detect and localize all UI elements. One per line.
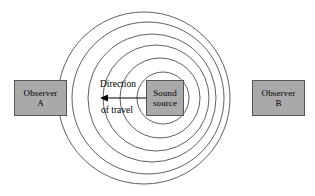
observer-a-line2: A	[37, 98, 44, 108]
doppler-effect-figure: Observer A Sound source Observer B Direc…	[0, 0, 315, 196]
observer-b-line2: B	[275, 98, 281, 108]
sound-source-box: Sound source	[146, 80, 184, 116]
observer-b-line1: Observer	[262, 88, 296, 98]
sound-source-line2: source	[153, 98, 177, 108]
direction-of-travel-label-line1: Direction	[100, 80, 136, 90]
direction-arrow	[100, 94, 146, 101]
arrow-head	[100, 94, 108, 101]
observer-a-box: Observer A	[14, 80, 67, 116]
direction-of-travel-label-line2: of travel	[101, 106, 133, 116]
observer-a-line1: Observer	[24, 88, 58, 98]
sound-source-line1: Sound	[153, 88, 177, 98]
observer-b-box: Observer B	[252, 80, 305, 116]
